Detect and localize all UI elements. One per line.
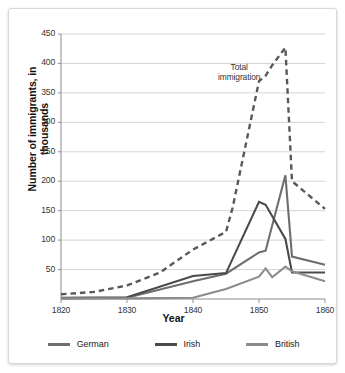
- legend-swatch: [155, 343, 177, 346]
- legend-item: British: [246, 339, 299, 349]
- legend-label: Irish: [184, 339, 201, 349]
- axis-lines: [61, 34, 325, 303]
- series-line: [61, 267, 325, 299]
- legend-item: German: [48, 339, 109, 349]
- line-chart-plot: [9, 9, 337, 364]
- legend-item: Irish: [155, 339, 201, 349]
- series-line: [61, 48, 325, 295]
- series-line: [61, 202, 325, 298]
- legend-label: British: [275, 339, 299, 349]
- legend-swatch: [48, 343, 70, 346]
- legend-label: German: [77, 339, 109, 349]
- legend-swatch: [246, 343, 268, 346]
- data-series: [61, 48, 325, 299]
- chart-card: Number of immigrants, in thousands Year …: [8, 8, 337, 364]
- chart-legend: GermanIrishBritish: [9, 339, 337, 349]
- gridlines: [58, 34, 325, 270]
